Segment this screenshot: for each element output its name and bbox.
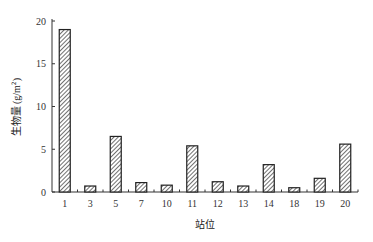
x-tick-label: 3 — [88, 198, 93, 209]
x-tick-label: 12 — [213, 198, 223, 209]
x-axis-title: 站位 — [195, 218, 215, 230]
bar-station-14 — [263, 165, 274, 192]
bar-chart: 05101520 13571011121314181920 站位 生物量(g/m… — [0, 0, 373, 242]
x-axis: 13571011121314181920 — [52, 190, 358, 210]
x-tick-label: 1 — [62, 198, 67, 209]
bar-station-19 — [314, 178, 325, 192]
x-tick-label: 7 — [139, 198, 144, 209]
bar-station-12 — [212, 182, 223, 192]
bar-station-7 — [136, 183, 147, 192]
x-tick-label: 18 — [289, 198, 299, 209]
x-tick-label: 13 — [238, 198, 248, 209]
y-axis-title-main: 生物量 — [10, 106, 22, 136]
bar-station-11 — [187, 146, 198, 192]
bars — [59, 30, 351, 192]
bar-station-10 — [161, 185, 172, 192]
y-axis: 05101520 — [36, 16, 55, 198]
x-tick-label: 11 — [187, 198, 197, 209]
x-tick-label: 5 — [113, 198, 118, 209]
bar-station-13 — [238, 186, 249, 192]
y-axis-title-unit: (g/m — [11, 85, 23, 104]
bar-station-5 — [110, 136, 121, 192]
y-axis-title-close: ) — [11, 78, 23, 81]
y-tick-label: 20 — [36, 16, 46, 27]
x-tick-label: 10 — [162, 198, 172, 209]
y-axis-title: 生物量(g/m2) — [10, 78, 23, 136]
y-tick-label: 5 — [41, 144, 46, 155]
x-tick-label: 20 — [340, 198, 350, 209]
bar-station-3 — [85, 186, 96, 192]
bar-station-1 — [59, 30, 70, 192]
x-tick-label: 19 — [315, 198, 325, 209]
bar-station-18 — [289, 188, 300, 192]
x-tick-label: 14 — [264, 198, 274, 209]
y-tick-label: 10 — [36, 101, 46, 112]
bar-station-20 — [340, 144, 351, 192]
y-tick-label: 15 — [36, 58, 46, 69]
y-tick-label: 0 — [41, 187, 46, 198]
